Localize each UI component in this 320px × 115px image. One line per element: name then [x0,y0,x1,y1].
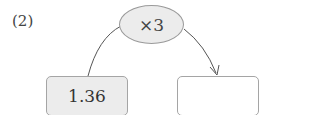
left-connector-line [88,26,121,76]
answer-box[interactable] [177,76,259,115]
input-box: 1.36 [46,76,128,115]
operator-text: ×3 [139,15,164,35]
operator-ellipse: ×3 [119,5,184,44]
right-connector-line [184,29,216,73]
input-value: 1.36 [68,86,106,106]
